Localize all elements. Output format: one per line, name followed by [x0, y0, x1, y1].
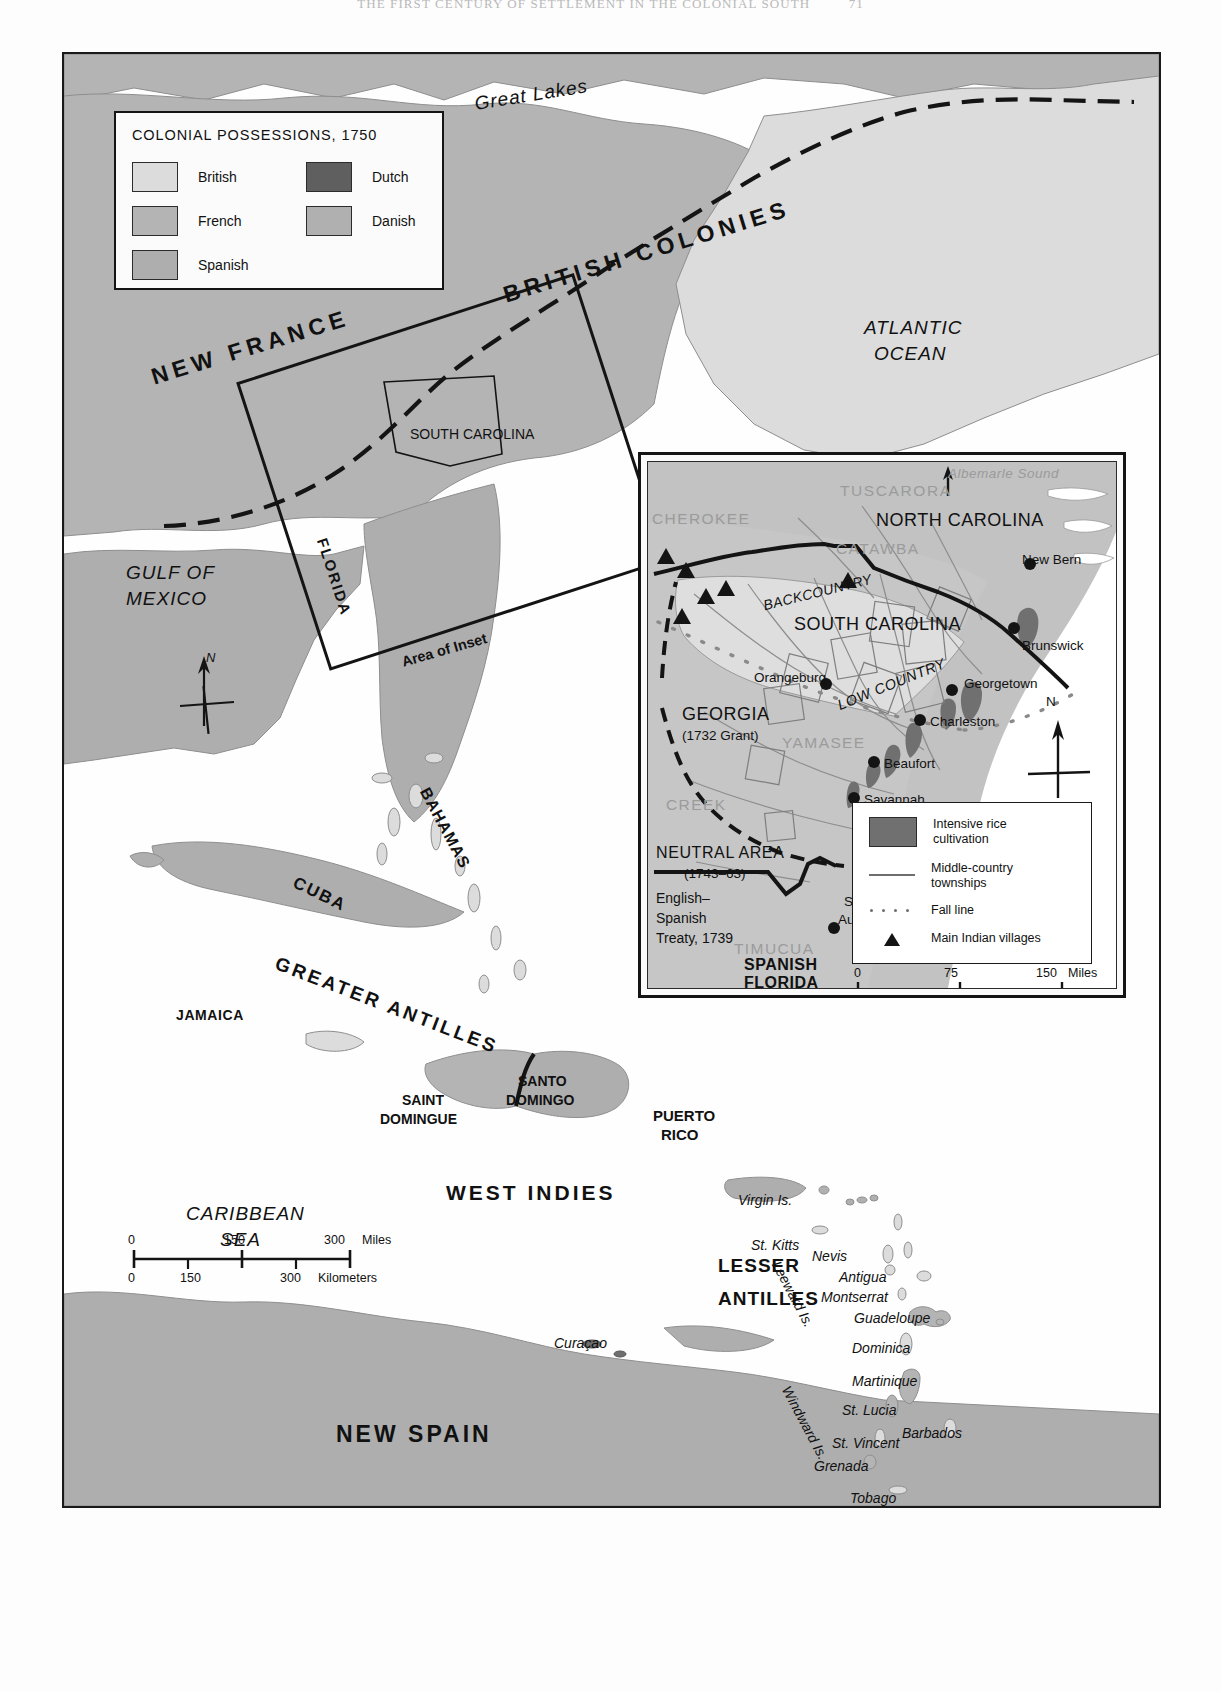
label-new-spain: NEW SPAIN [336, 1421, 492, 1448]
legend-swatch-french [132, 206, 178, 236]
inset-map-inner: Albemarle Sound TUSCARORA NORTH CAROLINA… [647, 461, 1117, 989]
inset-city-orangeburg: Orangeburg [754, 670, 826, 685]
inset-north-label: N [1046, 694, 1056, 709]
label-santo: SANTO [518, 1073, 567, 1089]
inset-scale-bar: 0 75 150 Miles 0 75 150 Kilometers [854, 968, 1104, 989]
label-atlantic: ATLANTIC [864, 317, 962, 339]
label-gulf-of: GULF OF [126, 562, 215, 584]
main-map-frame: COLONIAL POSSESSIONS, 1750 British Frenc… [62, 52, 1161, 1508]
inset-legend-item-townships: Middle-country townships [869, 861, 1013, 890]
inset-label-south-carolina: SOUTH CAROLINA [794, 614, 961, 635]
legend-label-spanish: Spanish [198, 257, 249, 273]
main-scale-km-2: 300 [280, 1271, 301, 1285]
legend-swatch-dutch [306, 162, 352, 192]
inset-city-new-bern: New Bern [1022, 552, 1081, 567]
legend-item-french: French [132, 206, 242, 236]
legend-label-french: French [198, 213, 242, 229]
inset-legend-label-townships: Middle-country townships [931, 861, 1013, 890]
label-caribbean: CARIBBEAN [186, 1203, 305, 1225]
inset-label-spanish: SPANISH [744, 956, 817, 974]
running-head-title: THE FIRST CENTURY OF SETTLEMENT IN THE C… [357, 0, 810, 11]
main-north-label: N [206, 650, 215, 665]
label-grenada: Grenada [814, 1458, 868, 1474]
label-domingo: DOMINGO [506, 1092, 574, 1108]
label-curacao: Curaçao [554, 1335, 607, 1351]
label-montserrat: Montserrat [821, 1289, 888, 1305]
inset-legend-label-villages: Main Indian villages [931, 931, 1041, 946]
inset-legend-item-rice: Intensive rice cultivation [869, 817, 1007, 847]
inset-city-brunswick: Brunswick [1022, 638, 1084, 653]
label-st-lucia: St. Lucia [842, 1402, 896, 1418]
township-line-icon [869, 861, 915, 889]
legend-item-spanish: Spanish [132, 250, 249, 280]
inset-label-neutral-area: NEUTRAL AREA [656, 844, 784, 862]
label-antigua: Antigua [839, 1269, 886, 1285]
inset-label-treaty-line2: Spanish [656, 910, 707, 926]
label-nevis: Nevis [812, 1248, 847, 1264]
inset-city-georgetown: Georgetown [964, 676, 1038, 691]
inset-north-arrow [1026, 706, 1096, 806]
page-number: 71 [849, 0, 864, 11]
main-scale-bar: 0 150 300 Miles 0 150 300 Kilometers [128, 1231, 428, 1293]
inset-city-beaufort: Beaufort [884, 756, 935, 771]
label-saint: SAINT [402, 1092, 444, 1108]
legend-swatch-spanish [132, 250, 178, 280]
main-scale-km-0: 0 [128, 1271, 135, 1285]
inset-scale-miles-0: 0 [854, 966, 861, 980]
label-jamaica: JAMAICA [176, 1007, 244, 1023]
label-rico: RICO [661, 1126, 699, 1143]
label-martinique: Martinique [852, 1373, 917, 1389]
fall-line-dots-icon [869, 903, 915, 919]
inset-label-neutral-dates: (1743–63) [684, 866, 746, 881]
legend-label-british: British [198, 169, 237, 185]
label-domingue: DOMINGUE [380, 1111, 457, 1127]
inset-label-tuscarora: TUSCARORA [840, 482, 952, 500]
inset-label-albemarle-sound: Albemarle Sound [948, 466, 1059, 481]
running-head: THE FIRST CENTURY OF SETTLEMENT IN THE C… [0, 0, 1221, 12]
inset-map: Albemarle Sound TUSCARORA NORTH CAROLINA… [638, 452, 1126, 998]
inset-legend: Intensive rice cultivation Middle-countr… [852, 802, 1092, 964]
main-scale-km-1: 150 [180, 1271, 201, 1285]
label-mexico: MEXICO [126, 588, 207, 610]
map-page: THE FIRST CENTURY OF SETTLEMENT IN THE C… [0, 0, 1221, 1692]
legend-item-danish: Danish [306, 206, 416, 236]
inset-label-florida: FLORIDA [744, 974, 819, 989]
inset-legend-label-fall-line: Fall line [931, 903, 974, 918]
legend-item-british: British [132, 162, 237, 192]
indian-village-triangle-icon [869, 931, 915, 947]
inset-legend-label-rice: Intensive rice cultivation [933, 817, 1007, 846]
label-west-indies: WEST INDIES [446, 1181, 616, 1205]
label-tobago: Tobago [850, 1490, 896, 1506]
main-scale-miles-unit: Miles [362, 1233, 391, 1247]
legend-label-dutch: Dutch [372, 169, 409, 185]
label-guadeloupe: Guadeloupe [854, 1310, 930, 1326]
label-puerto: PUERTO [653, 1107, 715, 1124]
label-ocean: OCEAN [874, 343, 947, 365]
inset-label-treaty-line3: Treaty, 1739 [656, 930, 733, 946]
colonial-possessions-legend: COLONIAL POSSESSIONS, 1750 British Frenc… [114, 111, 444, 290]
legend-title: COLONIAL POSSESSIONS, 1750 [116, 113, 442, 143]
inset-scale-miles-1: 75 [944, 966, 958, 980]
inset-scale-miles-unit: Miles [1068, 966, 1097, 980]
legend-label-danish: Danish [372, 213, 416, 229]
main-scale-miles-2: 300 [324, 1233, 345, 1247]
inset-label-creek: CREEK [666, 796, 726, 814]
rice-swatch-icon [869, 817, 917, 847]
inset-city-charleston: Charleston [930, 714, 995, 729]
inset-label-treaty-line1: English– [656, 890, 710, 906]
label-st-vincent: St. Vincent [832, 1435, 899, 1451]
inset-legend-item-villages: Main Indian villages [869, 931, 1041, 947]
inset-label-georgia: GEORGIA [682, 704, 770, 725]
label-st-kitts: St. Kitts [751, 1237, 799, 1253]
inset-label-north-carolina: NORTH CAROLINA [876, 510, 1044, 531]
inset-label-georgia-grant: (1732 Grant) [682, 728, 759, 743]
inset-legend-item-fall-line: Fall line [869, 903, 974, 919]
inset-label-cherokee: CHEROKEE [652, 510, 750, 528]
legend-swatch-danish [306, 206, 352, 236]
label-barbados: Barbados [902, 1425, 962, 1441]
legend-item-dutch: Dutch [306, 162, 409, 192]
label-dominica: Dominica [852, 1340, 910, 1356]
label-south-carolina-main: SOUTH CAROLINA [410, 426, 520, 442]
inset-scale-miles-2: 150 [1036, 966, 1057, 980]
main-scale-miles-1: 150 [224, 1233, 245, 1247]
